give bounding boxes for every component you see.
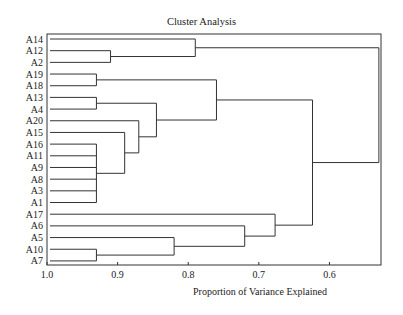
leaf-label: A11 bbox=[26, 150, 43, 161]
leaf-label: A13 bbox=[26, 92, 43, 103]
leaf-label: A18 bbox=[26, 80, 43, 91]
leaf-label: A7 bbox=[31, 255, 43, 266]
leaf-label: A16 bbox=[26, 139, 43, 150]
leaf-label: A3 bbox=[31, 185, 43, 196]
leaf-label: A20 bbox=[26, 115, 43, 126]
x-tick-label: 0.6 bbox=[323, 269, 336, 280]
dendrogram-plot: A14A12A2A19A18A13A4A20A15A16A11A9A8A3A1A… bbox=[0, 0, 403, 315]
leaf-label: A4 bbox=[31, 104, 43, 115]
leaf-label: A12 bbox=[26, 45, 43, 56]
leaf-label: A1 bbox=[31, 197, 43, 208]
leaf-label: A8 bbox=[31, 174, 43, 185]
leaf-label: A2 bbox=[31, 57, 43, 68]
leaf-label: A6 bbox=[31, 220, 43, 231]
x-tick-label: 0.8 bbox=[182, 269, 195, 280]
plot-frame bbox=[47, 34, 381, 265]
leaf-label: A17 bbox=[26, 209, 43, 220]
leaf-label: A19 bbox=[26, 69, 43, 80]
leaf-label: A10 bbox=[26, 244, 43, 255]
x-tick-label: 0.9 bbox=[111, 269, 124, 280]
x-axis-label: Proportion of Variance Explained bbox=[110, 286, 403, 297]
leaf-label: A15 bbox=[26, 127, 43, 138]
leaf-label: A5 bbox=[31, 232, 43, 243]
leaf-label: A9 bbox=[31, 162, 43, 173]
x-tick-label: 0.7 bbox=[253, 269, 266, 280]
x-tick-label: 1.0 bbox=[41, 269, 54, 280]
leaf-label: A14 bbox=[26, 34, 43, 45]
